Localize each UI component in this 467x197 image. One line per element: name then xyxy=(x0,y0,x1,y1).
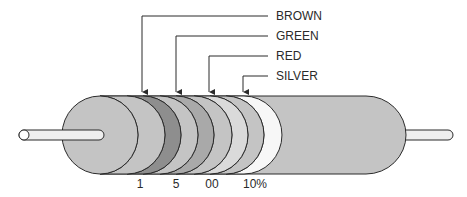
value-red: 00 xyxy=(205,178,218,190)
left-lead xyxy=(19,130,104,140)
value-green: 5 xyxy=(173,178,180,190)
label-green: GREEN xyxy=(276,30,319,42)
label-brown: BROWN xyxy=(276,10,322,22)
label-red: RED xyxy=(276,50,301,62)
leader-red xyxy=(209,56,268,92)
leader-silver xyxy=(243,76,268,92)
leader-green xyxy=(176,36,268,92)
resistor-diagram xyxy=(0,0,467,197)
leader-brown xyxy=(142,16,268,92)
leader-lines xyxy=(142,16,268,92)
value-silver: 10% xyxy=(243,178,267,190)
value-brown: 1 xyxy=(137,178,144,190)
label-silver: SILVER xyxy=(276,70,318,82)
